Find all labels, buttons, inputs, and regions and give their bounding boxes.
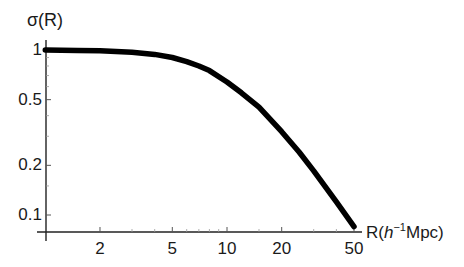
x-tick-label: 50: [339, 240, 369, 257]
x-axis-label-italic: h: [384, 223, 393, 242]
y-axis-label: σ(R): [27, 11, 63, 29]
x-axis-label-post: Mpc): [406, 223, 444, 242]
y-tick-label: 0.2: [2, 156, 42, 173]
x-tick-label: 2: [85, 240, 115, 257]
y-axis-label-text: σ(R): [27, 10, 63, 30]
x-axis-label-sup: −1: [393, 221, 406, 233]
x-tick-label: 10: [212, 240, 242, 257]
y-tick-label: 1: [2, 41, 42, 58]
axes: [37, 40, 362, 241]
y-tick-label: 0.5: [2, 91, 42, 108]
sigma-curve: [45, 50, 354, 227]
y-tick-label: 0.1: [2, 206, 42, 223]
x-tick-label: 5: [157, 240, 187, 257]
x-axis-label: R(h−1Mpc): [366, 224, 444, 241]
x-tick-label: 20: [267, 240, 297, 257]
